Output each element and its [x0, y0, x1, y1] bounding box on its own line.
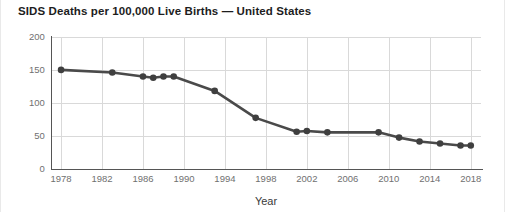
line-chart-plot: 050100150200 197819821986199019941998200…	[0, 0, 505, 212]
data-point-marker	[375, 129, 382, 136]
y-tick-label: 200	[29, 31, 45, 42]
x-tick-label: 2002	[296, 173, 317, 184]
data-point-marker	[396, 134, 403, 141]
data-point-marker	[467, 142, 474, 149]
x-axis-tick-labels: 1978198219861990199419982002200620102014…	[50, 173, 481, 184]
data-point-marker	[140, 73, 147, 80]
x-tick-label: 1994	[214, 173, 235, 184]
y-tick-label: 0	[40, 163, 45, 174]
x-tick-label: 2014	[419, 173, 440, 184]
y-axis-tick-labels: 050100150200	[29, 31, 45, 174]
data-point-marker	[304, 128, 311, 135]
data-point-marker	[150, 74, 157, 81]
y-tick-label: 100	[29, 97, 45, 108]
x-gridlines	[62, 37, 472, 169]
x-tick-label: 1978	[50, 173, 71, 184]
x-tick-label: 1982	[91, 173, 112, 184]
data-point-marker	[252, 115, 259, 122]
data-point-marker	[211, 88, 218, 95]
data-point-marker	[293, 128, 300, 135]
x-tick-label: 2006	[337, 173, 358, 184]
x-tick-label: 1986	[132, 173, 153, 184]
data-point-marker	[437, 140, 444, 147]
series-line	[61, 70, 471, 146]
data-point-marker	[416, 138, 423, 145]
x-tick-label: 1990	[173, 173, 194, 184]
data-point-marker	[324, 129, 331, 136]
x-tick-label: 2010	[378, 173, 399, 184]
y-tick-label: 150	[29, 64, 45, 75]
data-point-marker	[58, 67, 65, 74]
data-point-marker	[109, 69, 116, 76]
x-tick-label: 2018	[460, 173, 481, 184]
data-point-marker	[170, 73, 177, 80]
x-tick-label: 1998	[255, 173, 276, 184]
data-point-marker	[457, 142, 464, 149]
x-axis-title: Year	[255, 195, 278, 207]
data-point-marker	[160, 73, 167, 80]
chart-figure: SIDS Deaths per 100,000 Live Births — Un…	[0, 0, 505, 212]
y-tick-label: 50	[34, 130, 45, 141]
